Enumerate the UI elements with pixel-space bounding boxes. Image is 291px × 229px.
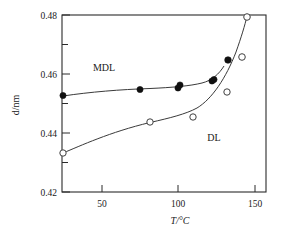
x-axis-title: T/°C xyxy=(170,215,189,226)
chart-figure: 0.48 0.46 0.44 0.42 50 100 150 d/nm T/°C xyxy=(0,0,291,229)
data-point-dl xyxy=(190,114,196,120)
y-axis-minor-ticks xyxy=(62,45,68,163)
dl-data-points xyxy=(60,14,251,157)
data-point-dl xyxy=(147,119,153,125)
x-tick-label-0: 50 xyxy=(97,199,107,209)
data-point-mdl xyxy=(177,82,183,88)
data-point-dl xyxy=(239,54,246,61)
y-axis-title: d/nm xyxy=(10,95,21,116)
y-tick-label-1: 0.46 xyxy=(40,70,57,80)
mdl-data-points xyxy=(60,57,231,99)
y-tick-label-0: 0.48 xyxy=(40,11,57,21)
x-tick-label-1: 100 xyxy=(171,199,186,209)
data-point-mdl xyxy=(137,86,143,92)
mdl-curve xyxy=(63,66,224,96)
data-point-dl xyxy=(60,150,66,156)
data-point-dl xyxy=(224,89,230,95)
scatter-plot: 0.48 0.46 0.44 0.42 50 100 150 d/nm T/°C xyxy=(0,0,291,229)
data-point-mdl xyxy=(60,92,66,98)
data-point-dl xyxy=(244,14,251,21)
x-axis-major-ticks xyxy=(102,185,255,192)
data-point-mdl xyxy=(225,57,232,64)
data-point-mdl xyxy=(211,76,217,82)
series-label-mdl: MDL xyxy=(93,62,115,73)
plot-frame xyxy=(62,15,266,192)
x-tick-label-2: 150 xyxy=(248,199,263,209)
series-label-dl: DL xyxy=(207,132,220,143)
y-tick-label-2: 0.44 xyxy=(40,129,57,139)
y-tick-label-3: 0.42 xyxy=(40,188,57,198)
